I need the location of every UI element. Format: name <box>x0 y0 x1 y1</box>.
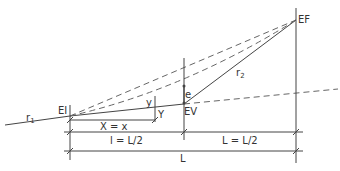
label-y-small: y <box>146 97 152 108</box>
label-r2: r2 <box>236 67 245 80</box>
label-ei: EI <box>58 105 67 116</box>
grade-line-r1 <box>5 116 70 125</box>
vertical-curve-diagram: r1 EI y Y e EV r2 EF X = x l = L/2 L = L… <box>0 0 340 171</box>
label-ev: EV <box>184 106 197 117</box>
label-y-point: Y <box>157 109 165 120</box>
grade-extension-dashed <box>184 89 338 104</box>
tangent-ei-ev <box>70 104 184 116</box>
dim-label-L-half: L = L/2 <box>222 135 258 146</box>
label-r1: r1 <box>26 112 35 125</box>
dim-label-L: L <box>180 153 186 164</box>
label-ef: EF <box>298 14 310 25</box>
dim-label-x: X = x <box>100 121 128 132</box>
ev-point-marker <box>183 102 186 105</box>
grade-line-r2 <box>184 20 296 104</box>
label-e: e <box>185 89 191 100</box>
chord-ei-ef-dashed <box>70 20 296 116</box>
dim-label-l-half: l = L/2 <box>110 135 143 146</box>
e-arrow-top <box>183 85 186 88</box>
